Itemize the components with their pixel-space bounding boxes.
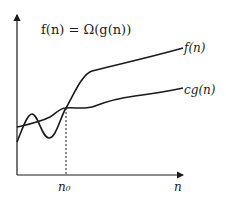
cg-curve — [17, 88, 183, 127]
big-omega-diagram: f(n) = Ω(g(n)) f(n) cg(n) n₀ n — [0, 0, 226, 201]
n0-label: n₀ — [58, 180, 71, 194]
x-axis-label: n — [174, 180, 182, 194]
f-label: f(n) — [183, 41, 206, 55]
f-curve — [17, 48, 183, 142]
title-label: f(n) = Ω(g(n)) — [41, 22, 131, 37]
cg-label: cg(n) — [184, 83, 216, 97]
